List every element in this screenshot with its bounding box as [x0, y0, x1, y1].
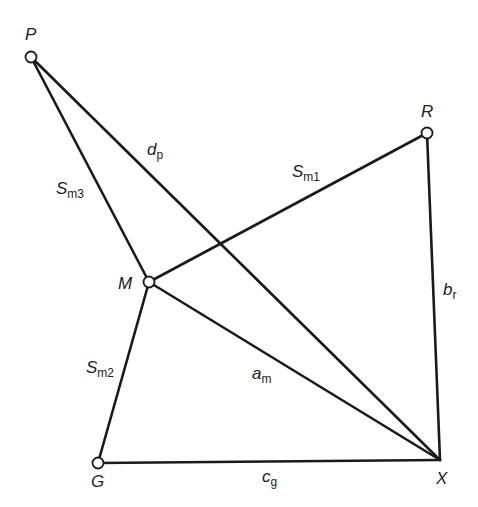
- edge-label-s-m2: Sm2: [86, 358, 114, 380]
- edge-b-r: [427, 133, 440, 460]
- edge-c-g: [98, 460, 440, 463]
- edge-label-s-m1: Sm1: [292, 162, 320, 184]
- node-g-circle: [93, 458, 104, 469]
- node-r-label: R: [421, 102, 433, 121]
- edge-s-m3: [31, 57, 149, 282]
- node-x-label: X: [435, 469, 448, 488]
- edge-d-p: [31, 57, 440, 460]
- edge-label-d-p: dp: [147, 140, 163, 162]
- edge-a-m: [149, 282, 440, 460]
- node-g-label: G: [91, 472, 104, 491]
- node-r-circle: [422, 128, 433, 139]
- edge-s-m1: [149, 133, 427, 282]
- node-p-circle: [26, 52, 37, 63]
- diagram-canvas: P R M G X dp Sm3 Sm1 br am Sm2 cg: [0, 0, 478, 507]
- edge-label-s-m3: Sm3: [56, 179, 84, 201]
- node-m-circle: [144, 277, 155, 288]
- edge-label-c-g: cg: [262, 467, 277, 489]
- diagram-svg: P R M G X dp Sm3 Sm1 br am Sm2 cg: [0, 0, 478, 507]
- edge-label-a-m: am: [252, 364, 271, 386]
- node-m-label: M: [118, 274, 133, 293]
- edge-label-b-r: br: [443, 280, 456, 302]
- node-p-label: P: [25, 25, 37, 44]
